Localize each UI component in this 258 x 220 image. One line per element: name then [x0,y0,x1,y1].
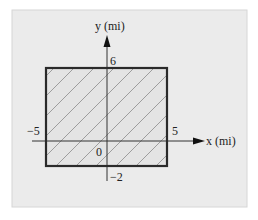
y-axis-label: y (mi) [95,19,125,33]
tick-label-x-max: 5 [172,124,178,138]
tick-label-y-min: −2 [110,170,123,184]
tick-label-y-max: 6 [110,54,116,68]
x-axis-label: x (mi) [206,134,236,148]
tick-label-x-min: −5 [27,124,40,138]
origin-label: 0 [96,145,102,159]
region-diagram: y (mi) x (mi) 6 −2 −5 5 0 [0,0,258,220]
